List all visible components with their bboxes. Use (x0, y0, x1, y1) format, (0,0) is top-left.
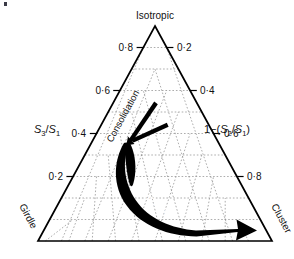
scan-artifact-speck (4, 2, 7, 6)
ternary-diagram-svg: Isotropic Girdle Cluster S3/S1 1−(S2/S1)… (0, 0, 294, 259)
right-tick-label-08: 0·8 (247, 171, 262, 182)
right-axis-lead: 1−( (204, 123, 221, 135)
right-tick-label-06: 0·6 (224, 128, 239, 139)
left-tick-label-06: 0·6 (96, 85, 111, 96)
left-tick-label-08: 0·8 (119, 42, 134, 53)
right-tick-label-02: 0·2 (177, 42, 192, 53)
left-tick-label-02: 0·2 (49, 171, 64, 182)
left-tick-label-04: 0·4 (72, 128, 87, 139)
left-axis-den-sub: 1 (56, 129, 60, 138)
right-axis-tail: ) (246, 123, 250, 135)
right-tick-label-04: 0·4 (200, 85, 215, 96)
ternary-diagram-figure: Isotropic Girdle Cluster S3/S1 1−(S2/S1)… (0, 0, 294, 259)
vertex-label-isotropic: Isotropic (136, 10, 174, 21)
